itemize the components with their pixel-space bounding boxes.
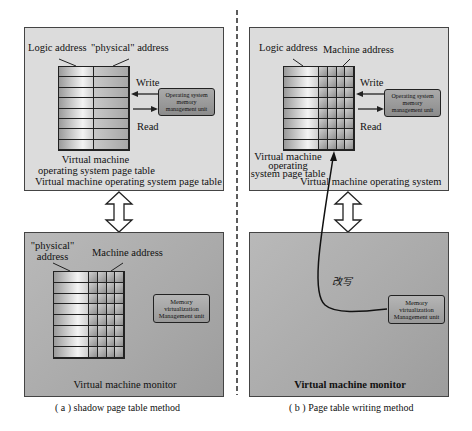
bidirectional-arrow-icon — [333, 191, 363, 233]
connector-lines — [250, 28, 450, 192]
divider-dashed-line — [235, 0, 239, 431]
connector-lines — [25, 28, 225, 192]
caption-b: ( b ) Page table writing method — [289, 402, 413, 413]
bidirectional-arrow-icon — [104, 191, 134, 233]
left-guest-os-panel: Logic address "physical" address Write R… — [24, 27, 224, 191]
panel-title: Virtual machine monitor — [250, 379, 450, 390]
caption-a: ( a ) shadow page table method — [55, 402, 180, 413]
right-vmm-panel: 改写 Memory virtualization Management unit… — [249, 232, 449, 397]
connector-lines — [25, 233, 225, 398]
right-guest-os-panel: Logic address Machine address Write Read… — [249, 27, 449, 191]
left-vmm-panel: "physical" address Machine address Memor… — [24, 232, 224, 397]
memory-virtualization-unit: Memory virtualization Management unit — [388, 295, 445, 324]
rewrite-label: 改写 — [332, 276, 352, 287]
